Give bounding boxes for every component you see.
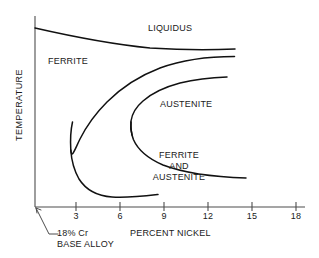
region-label-austenite: AUSTENITE — [160, 99, 212, 109]
two-phase-line-1: FERRITE — [140, 150, 218, 161]
phase-diagram-figure: 3 6 9 12 15 18 TEMPERATURE PERCENT NICKE… — [0, 0, 319, 258]
x-axis-title: PERCENT NICKEL — [130, 228, 211, 238]
x-tick-label-12: 12 — [197, 211, 219, 221]
region-label-ferrite: FERRITE — [48, 56, 88, 66]
base-alloy-annotation: 18% Cr BASE ALLOY — [57, 228, 114, 250]
base-alloy-line-1: 18% Cr — [57, 228, 114, 239]
x-tick-label-18: 18 — [285, 211, 307, 221]
two-phase-line-3: AUSTENITE — [140, 172, 218, 183]
y-axis-title: TEMPERATURE — [14, 50, 24, 160]
base-alloy-line-2: BASE ALLOY — [57, 239, 114, 250]
x-tick-label-15: 15 — [241, 211, 263, 221]
region-label-liquidus: LIQUIDUS — [148, 23, 192, 33]
liquidus-curve — [35, 28, 235, 50]
base-alloy-leader — [36, 208, 58, 234]
x-tick-label-3: 3 — [65, 211, 87, 221]
two-phase-line-2: AND — [140, 161, 218, 172]
x-tick-label-6: 6 — [109, 211, 131, 221]
x-tick-label-9: 9 — [153, 211, 175, 221]
region-label-ferrite-and-austenite: FERRITE AND AUSTENITE — [140, 150, 218, 183]
